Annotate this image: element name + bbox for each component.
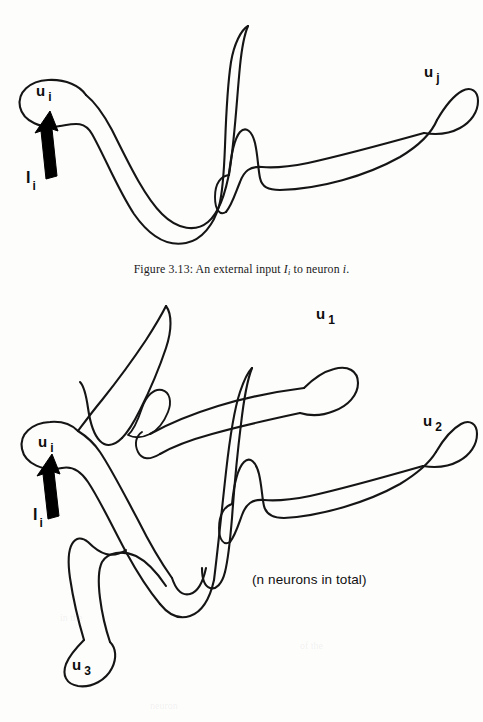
axon-u-i-upper-branch-tip [122,306,171,438]
label-u-3: u3 [72,657,88,673]
label-u-j: uj [424,64,437,80]
caption-symbol-subscript: i [288,268,290,277]
axon-u-i-upper-edge [86,26,248,228]
label-u-2: u2 [423,413,439,429]
axon-u-2-terminal-left-edge [214,368,252,580]
n-neurons-note: (n neurons in total) [252,572,367,587]
external-input-arrow [35,111,58,179]
caption-period: . [346,262,349,276]
label-I-i: Ii [33,507,41,523]
label-u-i: ui [38,434,51,450]
synapse-hook-u1 [128,390,170,437]
figure-page: ui Ii uj Figure 3.13: An external input … [0,0,483,722]
axon-u-i-terminal-tip [219,26,248,206]
axon-u-i-upper-branch-edge-a [78,306,166,431]
dendrite-u-1-upper-edge [150,388,304,434]
caption-text-before: An external input [196,262,281,276]
neuron-outline-drawing-top [0,0,483,260]
axon-u-i-terminal-loop-inner [172,568,206,594]
axon-u-i-main-trunk-upper-edge [78,431,172,578]
figure-caption: Figure 3.13: An external input Ii to neu… [0,262,483,277]
figure-top-diagram: ui Ii uj [0,0,483,260]
label-I-i: Ii [26,170,34,186]
caption-prefix: Figure 3.13: [134,262,193,276]
label-u-i: ui [36,83,49,99]
caption-text-after: to neuron [293,262,339,276]
soma-u-1-outline [300,368,358,415]
dendrite-u-j-upper-edge [229,120,437,190]
figure-bottom-diagram: ui Ii u1 u2 u3 (n neurons in total) [0,292,483,722]
axon-u-i-upper-branch-edge-b [80,382,122,445]
label-u-1: u1 [316,306,332,322]
dendrite-u-2-upper-edge [232,452,436,518]
